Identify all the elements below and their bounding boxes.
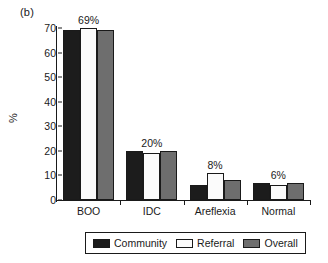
bar-value-label: 6% bbox=[247, 169, 310, 181]
bar-group: 20% bbox=[120, 28, 183, 200]
panel-label: (b) bbox=[20, 6, 34, 18]
bar-set bbox=[57, 28, 120, 200]
bar-referral[interactable] bbox=[270, 185, 287, 200]
legend-label-community: Community bbox=[114, 237, 167, 249]
bar-community[interactable] bbox=[190, 185, 207, 200]
y-tick-label: 0 bbox=[0, 194, 62, 206]
bar-community[interactable] bbox=[126, 151, 143, 200]
y-tick-label: 30 bbox=[0, 120, 62, 132]
bar-value-label: 8% bbox=[184, 159, 247, 171]
bar-referral[interactable] bbox=[143, 153, 160, 200]
y-tick-label: 70 bbox=[0, 22, 62, 34]
legend-item-referral: Referral bbox=[176, 237, 234, 249]
bar-overall[interactable] bbox=[224, 180, 241, 200]
bar-overall[interactable] bbox=[160, 151, 177, 200]
legend-label-referral: Referral bbox=[197, 237, 234, 249]
figure-panel-b: (b) % 010203040506070 69%20%8%6% BOOIDCA… bbox=[0, 0, 328, 263]
x-axis-label: BOO bbox=[57, 205, 120, 217]
bar-set bbox=[120, 28, 183, 200]
x-axis-tick bbox=[310, 200, 311, 205]
y-tick-label: 20 bbox=[0, 145, 62, 157]
legend-item-community: Community bbox=[93, 237, 167, 249]
bar-referral[interactable] bbox=[207, 173, 224, 200]
bar-set bbox=[184, 28, 247, 200]
legend-label-overall: Overall bbox=[264, 237, 297, 249]
legend-swatch-overall bbox=[243, 239, 260, 248]
y-tick-label: 60 bbox=[0, 47, 62, 59]
x-axis-label: Areflexia bbox=[184, 205, 247, 217]
bar-group: 6% bbox=[247, 28, 310, 200]
x-axis-label: IDC bbox=[120, 205, 183, 217]
chart-legend: Community Referral Overall bbox=[85, 232, 306, 254]
y-tick-label: 50 bbox=[0, 71, 62, 83]
bar-overall[interactable] bbox=[287, 183, 304, 200]
y-tick-label: 40 bbox=[0, 96, 62, 108]
legend-swatch-community bbox=[93, 239, 110, 248]
bar-group: 69% bbox=[57, 28, 120, 200]
legend-swatch-referral bbox=[176, 239, 193, 248]
legend-item-overall: Overall bbox=[243, 237, 297, 249]
y-tick-label: 10 bbox=[0, 169, 62, 181]
bar-referral[interactable] bbox=[80, 28, 97, 200]
bar-value-label: 69% bbox=[57, 14, 120, 26]
bar-community[interactable] bbox=[253, 183, 270, 200]
bar-community[interactable] bbox=[63, 30, 80, 200]
x-axis-label: Normal bbox=[247, 205, 310, 217]
bar-value-label: 20% bbox=[120, 137, 183, 149]
bar-group: 8% bbox=[184, 28, 247, 200]
bar-overall[interactable] bbox=[97, 30, 114, 200]
